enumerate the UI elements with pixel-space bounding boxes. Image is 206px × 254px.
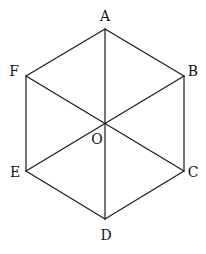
- vertex-label-f: F: [9, 63, 19, 79]
- vertex-label-b: B: [188, 63, 198, 79]
- edge-de: [26, 171, 105, 219]
- edge-ab: [105, 29, 184, 76]
- vertex-label-c: C: [188, 164, 199, 180]
- vertex-label-e: E: [10, 164, 20, 180]
- edges: [26, 29, 184, 219]
- edge-fa: [26, 29, 105, 76]
- labels: A B C D E F O: [9, 8, 198, 243]
- vertex-label-d: D: [100, 227, 111, 243]
- vertex-label-a: A: [99, 8, 111, 24]
- edge-cd: [105, 171, 184, 219]
- center-label-o: O: [91, 131, 102, 147]
- hexagon-diagram: A B C D E F O: [0, 0, 206, 254]
